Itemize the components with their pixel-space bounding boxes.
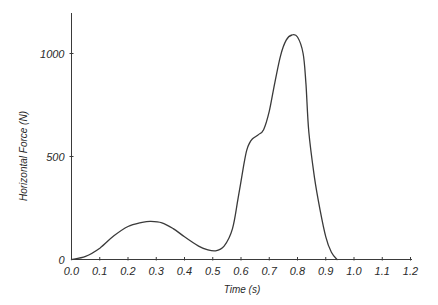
x-tick-label: 0.8 <box>290 265 306 277</box>
force-curve <box>72 35 338 260</box>
x-tick-label: 0.1 <box>92 265 107 277</box>
x-tick-label: 1.2 <box>403 265 418 277</box>
y-axis-title: Horizontal Force (N) <box>18 111 29 201</box>
y-tick-label: 1000 <box>40 48 65 60</box>
axes <box>72 13 413 260</box>
y-tick-label: 500 <box>46 151 65 163</box>
x-tick-label: 0.7 <box>262 265 278 277</box>
x-tick-label: 0.0 <box>64 265 80 277</box>
x-tick-label: 0.2 <box>120 265 135 277</box>
x-tick-label: 1.1 <box>375 265 390 277</box>
x-axis-title: Time (s) <box>224 284 261 295</box>
x-tick-label: 0.5 <box>205 265 221 277</box>
x-tick-label: 0.6 <box>233 265 249 277</box>
x-tick-label: 0.9 <box>318 265 333 277</box>
y-ticks: 05001000 <box>40 48 73 266</box>
force-time-chart: 05001000 0.00.10.20.30.40.50.60.70.80.91… <box>0 0 438 305</box>
x-tick-label: 0.4 <box>177 265 192 277</box>
x-tick-label: 0.3 <box>149 265 165 277</box>
x-tick-label: 1.0 <box>346 265 362 277</box>
